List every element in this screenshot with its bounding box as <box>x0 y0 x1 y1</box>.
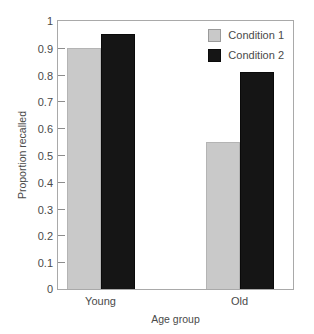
legend-label-condition-2: Condition 2 <box>228 50 284 61</box>
y-axis-tick: 0.1 <box>58 262 65 263</box>
y-axis-tick-label: 0.1 <box>38 258 53 269</box>
y-axis-tick-label: 0.3 <box>38 204 53 215</box>
y-axis-tick-label: 0.2 <box>38 231 53 242</box>
bar-young-condition-1 <box>67 48 101 289</box>
legend-swatch-icon-condition-1 <box>208 29 221 42</box>
legend-swatch-icon-condition-2 <box>208 49 221 62</box>
legend-label-condition-1: Condition 1 <box>228 30 284 41</box>
y-axis-tick: 0.3 <box>58 209 65 210</box>
y-axis-tick-label: 0 <box>47 284 53 295</box>
y-axis-tick: 0.7 <box>58 101 65 102</box>
bar-chart: Proportion recalled 00.10.20.30.40.50.60… <box>0 0 314 334</box>
y-axis-tick-label: 0.8 <box>38 70 53 81</box>
y-axis-tick: 0.6 <box>58 128 65 129</box>
y-axis-tick: 0.9 <box>58 48 65 49</box>
y-axis-tick-label: 1 <box>47 16 53 27</box>
legend: Condition 1Condition 2 <box>208 29 284 62</box>
y-axis-tick-label: 0.5 <box>38 151 53 162</box>
legend-item-condition-1: Condition 1 <box>208 29 284 42</box>
plot-area: 00.10.20.30.40.50.60.70.80.91 Condition … <box>57 20 294 290</box>
y-axis-title: Proportion recalled <box>14 20 30 290</box>
x-axis-tick-label-young: Young <box>85 296 116 307</box>
bar-young-condition-2 <box>101 34 135 289</box>
x-axis-title: Age group <box>57 314 294 325</box>
legend-item-condition-2: Condition 2 <box>208 49 284 62</box>
y-axis-tick-label: 0.6 <box>38 124 53 135</box>
bar-old-condition-1 <box>206 142 240 289</box>
y-axis-tick: 0.4 <box>58 182 65 183</box>
bar-old-condition-2 <box>240 72 274 289</box>
y-axis-tick-label: 0.4 <box>38 177 53 188</box>
x-axis-tick-label-old: Old <box>231 296 248 307</box>
y-axis-tick: 0.8 <box>58 75 65 76</box>
y-axis-tick: 0.2 <box>58 235 65 236</box>
y-axis-tick: 0.5 <box>58 155 65 156</box>
y-axis-tick-label: 0.9 <box>38 43 53 54</box>
y-axis-tick-label: 0.7 <box>38 97 53 108</box>
